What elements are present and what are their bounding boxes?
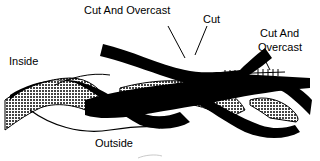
label-cut-and-overcast-right-line2: Overcast — [258, 41, 302, 53]
label-cut: Cut — [203, 13, 220, 25]
label-inside: Inside — [9, 55, 38, 67]
watermark-mark — [138, 155, 162, 158]
braid-strand-hatched-right — [250, 98, 298, 122]
label-cut-and-overcast-top: Cut And Overcast — [84, 4, 170, 16]
leader-cut-and-overcast-right-b — [266, 62, 270, 70]
leader-cut — [195, 26, 207, 55]
leader-cut-and-overcast-top — [168, 26, 185, 58]
label-outside: Outside — [95, 137, 133, 149]
braid-diagram: Cut And Overcast Cut Cut And Overcast In… — [0, 0, 320, 161]
label-cut-and-overcast-right-line1: Cut And — [260, 27, 299, 39]
